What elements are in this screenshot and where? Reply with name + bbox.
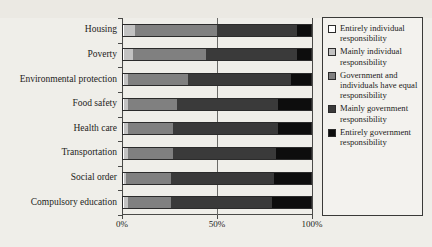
bar-segment: [206, 48, 297, 61]
legend-swatch-icon: [328, 105, 336, 113]
bar-segment: [124, 24, 135, 37]
y-tick-mark: [118, 117, 122, 118]
bar-segment: [274, 172, 312, 185]
bar-row: [122, 122, 312, 135]
bar-row: [122, 48, 312, 61]
bar-segment: [133, 48, 205, 61]
legend-swatch-icon: [328, 25, 336, 33]
bar-segment: [173, 147, 276, 160]
bar-row: [122, 172, 312, 185]
category-label: Housing: [85, 24, 117, 35]
category-label: Health care: [73, 123, 117, 134]
bar-segment: [297, 24, 312, 37]
bar-segment: [128, 122, 174, 135]
category-label: Transportation: [61, 147, 117, 158]
bar-row: [122, 147, 312, 160]
category-label: Social order: [71, 172, 117, 183]
bar-segment: [278, 98, 312, 111]
bar-segment: [276, 147, 312, 160]
bar-segment: [171, 172, 274, 185]
category-label: Poverty: [87, 49, 117, 60]
bar-segment: [124, 48, 134, 61]
bar-row: [122, 73, 312, 86]
bar-segment: [297, 48, 312, 61]
y-tick-mark: [118, 43, 122, 44]
x-tick-label: 0%: [116, 219, 128, 230]
legend-label: Government and individuals have equal re…: [340, 70, 418, 101]
plot-area: 0%50%100%: [122, 18, 312, 215]
x-tick-label: 100%: [302, 219, 323, 230]
legend-item[interactable]: Government and individuals have equal re…: [328, 70, 418, 101]
plot-right-edge: [312, 18, 313, 215]
bar-segment: [173, 122, 278, 135]
legend-swatch-icon: [328, 72, 336, 80]
bar-segment: [188, 73, 291, 86]
legend-label: Mainly government responsibility: [340, 103, 418, 123]
bar-segment: [128, 147, 174, 160]
category-label: Food safety: [72, 98, 117, 109]
category-label: Compulsory education: [31, 197, 117, 208]
bar-row: [122, 98, 312, 111]
legend-item[interactable]: Entirely individual responsibility: [328, 23, 418, 43]
legend-label: Mainly individual responsibility: [340, 46, 418, 66]
bar-segment: [177, 98, 278, 111]
stacked-bar-chart-figure: 0%50%100% HousingPovertyEnvironmental pr…: [0, 0, 432, 247]
legend-label: Entirely individual responsibility: [340, 23, 418, 43]
y-tick-mark: [118, 18, 122, 19]
y-tick-mark: [118, 67, 122, 68]
bar-segment: [128, 196, 172, 209]
legend-item[interactable]: Entirely government responsibility: [328, 127, 418, 147]
bar-row: [122, 24, 312, 37]
legend-item[interactable]: Mainly government responsibility: [328, 103, 418, 123]
category-label: Environmental protection: [20, 74, 117, 85]
bar-segment: [217, 24, 297, 37]
y-tick-mark: [118, 190, 122, 191]
y-tick-mark: [118, 92, 122, 93]
y-tick-mark: [118, 141, 122, 142]
legend-label: Entirely government responsibility: [340, 127, 418, 147]
bar-segment: [135, 24, 217, 37]
bar-segment: [272, 196, 312, 209]
legend-item[interactable]: Mainly individual responsibility: [328, 46, 418, 66]
bar-segment: [171, 196, 272, 209]
bar-segment: [278, 122, 312, 135]
legend-swatch-icon: [328, 129, 336, 137]
bar-row: [122, 196, 312, 209]
legend-swatch-icon: [328, 48, 336, 56]
bar-segment: [128, 98, 177, 111]
x-tick-label: 50%: [209, 219, 226, 230]
paper-texture: [0, 0, 432, 18]
bar-segment: [291, 73, 312, 86]
legend: Entirely individual responsibilityMainly…: [322, 17, 423, 216]
bar-segment: [128, 73, 189, 86]
y-tick-mark: [118, 166, 122, 167]
bar-segment: [126, 172, 172, 185]
